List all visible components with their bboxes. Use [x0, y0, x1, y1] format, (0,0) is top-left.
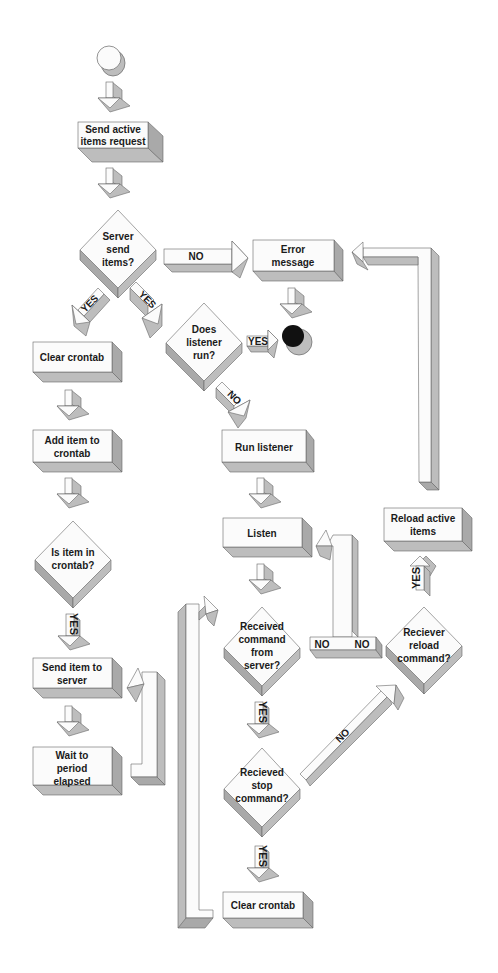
- arrow-right-no: NO: [164, 241, 248, 278]
- decision-reciever-reload-command: Reciever reload command?: [386, 607, 462, 694]
- arrow-loop-clear-to-received: [178, 596, 218, 928]
- node-label: Does: [192, 324, 217, 335]
- node-label: Recieved: [240, 767, 284, 778]
- process-add-item-to-crontab: Add item to crontab: [33, 430, 122, 472]
- node-label: command?: [397, 653, 450, 664]
- process-reload-active-items: Reload active items: [384, 508, 472, 551]
- node-label: reload: [409, 640, 439, 651]
- node-label: crontab?: [52, 560, 95, 571]
- process-send-active-items-request: Send active items request: [78, 122, 163, 162]
- node-label: server: [57, 675, 87, 686]
- arrow-return-reload-to-error: [352, 242, 439, 490]
- node-label: items request: [80, 136, 146, 147]
- node-label: listener: [186, 337, 222, 348]
- node-label: Is item in: [51, 547, 94, 558]
- node-label: Run listener: [235, 442, 293, 453]
- node-label: period: [57, 763, 88, 774]
- arrow-no-diagonal-up: NO: [300, 685, 404, 786]
- end-node: [282, 325, 312, 355]
- edge-label: NO: [189, 251, 204, 262]
- node-label: message: [272, 257, 315, 268]
- edge-label: YES: [410, 567, 422, 589]
- arrow-no-diagonal: NO: [216, 382, 250, 428]
- node-label: Add item to: [45, 435, 100, 446]
- process-run-listener: Run listener: [222, 430, 314, 472]
- arrow-down-icon: [57, 390, 89, 420]
- edge-label: YES: [248, 336, 268, 347]
- process-error-message: Error message: [253, 240, 343, 281]
- node-label: elapsed: [53, 776, 90, 787]
- arrow-right-yes: YES: [247, 330, 278, 358]
- node-label: Clear crontab: [231, 900, 295, 911]
- arrow-down-yes: YES: [58, 613, 90, 650]
- node-label: Clear crontab: [40, 352, 104, 363]
- node-label: crontab: [54, 448, 91, 459]
- arrow-yes-left: YES: [72, 288, 110, 336]
- decision-received-command-from-server: Received command from server?: [224, 607, 300, 696]
- process-listen: Listen: [223, 518, 312, 557]
- edge-label: NO: [355, 639, 370, 650]
- node-label: items?: [102, 257, 134, 268]
- decision-recieved-stop-command: Recieved stop command?: [224, 748, 300, 837]
- process-wait-to-period-elapsed: Wait to period elapsed: [33, 747, 122, 795]
- process-clear-crontab: Clear crontab: [33, 342, 122, 382]
- node-label: from: [251, 647, 273, 658]
- arrow-return-no-to-listen: NO NO: [310, 530, 382, 658]
- node-label: stop: [251, 780, 272, 791]
- arrow-yes-right: YES: [130, 282, 162, 338]
- edge-label: NO: [315, 639, 330, 650]
- arrow-down-icon: [57, 706, 89, 736]
- node-label: command?: [235, 793, 288, 804]
- flowchart-canvas: Send active items request Server send it…: [0, 0, 498, 973]
- start-node: [97, 46, 125, 76]
- arrow-up-yes: YES: [410, 556, 436, 596]
- arrow-down-icon: [98, 82, 130, 112]
- decision-server-send-items: Server send items?: [80, 210, 156, 298]
- node-label: run?: [193, 350, 215, 361]
- decision-does-listener-run: Does listener run?: [166, 303, 242, 391]
- node-label: Received: [240, 621, 284, 632]
- edge-label: YES: [257, 845, 269, 867]
- process-send-item-to-server: Send item to server: [33, 658, 122, 698]
- arrow-down-icon: [280, 288, 312, 318]
- node-label: Reload active: [391, 513, 456, 524]
- node-label: Listen: [247, 528, 276, 539]
- decision-is-item-in-crontab: Is item in crontab?: [35, 521, 111, 608]
- node-label: Send item to: [42, 662, 102, 673]
- node-label: server?: [244, 660, 280, 671]
- node-label: Server: [102, 231, 133, 242]
- arrow-down-icon: [249, 478, 281, 508]
- process-clear-crontab-final: Clear crontab: [223, 892, 313, 928]
- node-label: Reciever: [403, 627, 445, 638]
- arrow-down-yes: YES: [247, 845, 279, 882]
- node-label: send: [106, 244, 129, 255]
- edge-label: YES: [257, 701, 269, 723]
- arrow-down-icon: [98, 168, 130, 198]
- node-label: Send active: [85, 124, 141, 135]
- node-label: items: [410, 526, 437, 537]
- arrow-down-yes: YES: [247, 701, 279, 738]
- node-label: Wait to: [56, 750, 89, 761]
- arrow-down-icon: [57, 478, 89, 508]
- node-label: Error: [281, 244, 306, 255]
- node-label: command: [238, 634, 285, 645]
- arrow-loop-wait-to-send: [127, 668, 165, 785]
- arrow-down-icon: [249, 564, 281, 594]
- edge-label: YES: [68, 613, 80, 635]
